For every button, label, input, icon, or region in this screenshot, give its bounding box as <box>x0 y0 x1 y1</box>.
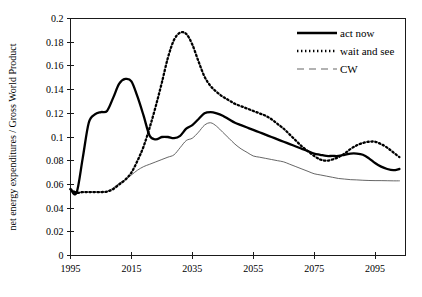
x-tick-label: 2055 <box>243 263 263 274</box>
y-tick-label: 0.1 <box>51 132 64 143</box>
line-chart: 00.020.040.060.080.10.120.140.160.180.2 … <box>0 0 422 297</box>
y-tick-label: 0.18 <box>46 37 64 48</box>
x-tick-label: 1995 <box>61 263 81 274</box>
y-axis-title: net energy expenditures / Gross World Pr… <box>7 43 18 230</box>
y-tick-label: 0.04 <box>46 203 64 214</box>
y-tick-label: 0.02 <box>46 226 64 237</box>
y-tick-label: 0.08 <box>46 155 64 166</box>
x-tick-label: 2035 <box>182 263 202 274</box>
legend-label-act-now: act now <box>340 27 375 39</box>
chart-legend: act nowwait and seeCW <box>297 27 394 75</box>
legend-label-wait-and-see: wait and see <box>340 45 394 57</box>
x-axis-tick-labels: 199520152035205520752095 <box>61 263 386 274</box>
x-tick-label: 2075 <box>304 263 324 274</box>
y-tick-label: 0 <box>59 250 64 261</box>
series-line-cw <box>71 123 400 193</box>
y-axis-tick-labels: 00.020.040.060.080.10.120.140.160.180.2 <box>46 13 64 261</box>
y-axis-title-text: net energy expenditures / Gross World Pr… <box>7 43 18 230</box>
x-tick-label: 2015 <box>121 263 141 274</box>
y-tick-label: 0.2 <box>51 13 64 24</box>
y-tick-label: 0.06 <box>46 179 64 190</box>
series-line-act-now <box>71 79 400 195</box>
legend-label-cw: CW <box>340 63 358 75</box>
y-tick-label: 0.14 <box>46 84 64 95</box>
y-tick-label: 0.12 <box>46 108 64 119</box>
y-tick-label: 0.16 <box>46 60 64 71</box>
x-tick-label: 2095 <box>365 263 385 274</box>
chart-container: 00.020.040.060.080.10.120.140.160.180.2 … <box>0 0 422 297</box>
